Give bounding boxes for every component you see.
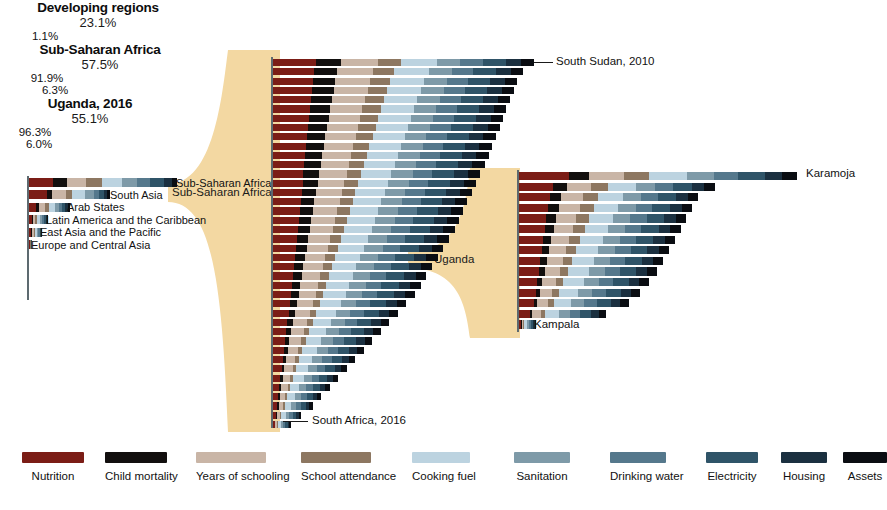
bar-segment-assets xyxy=(451,207,463,214)
legend-swatch-icon xyxy=(610,452,666,463)
bar-segment-assets xyxy=(447,217,459,224)
bar-segment-drinking-water xyxy=(584,299,597,307)
bar-segment-cooking-fuel xyxy=(287,393,295,400)
bar-segment-drinking-water xyxy=(398,207,417,214)
bar-segment-sanitation xyxy=(388,180,409,187)
bar-segment-sanitation xyxy=(385,189,406,196)
bar-segment-assets xyxy=(676,214,686,222)
bar-uganda-13 xyxy=(519,310,606,318)
bar-segment-electricity xyxy=(319,375,327,382)
bar-segment-nutrition xyxy=(273,143,306,150)
bar-segment-housing xyxy=(349,347,357,354)
bar-segment-sanitation xyxy=(636,183,655,191)
legend-item-housing[interactable]: Housing xyxy=(781,452,827,482)
bar-segment-sanitation xyxy=(608,225,625,233)
bar-segment-school-attendance xyxy=(552,289,559,297)
bar-segment-sanitation xyxy=(331,319,345,326)
bar-segment-nutrition xyxy=(29,190,47,199)
bar-ssa-34 xyxy=(273,375,338,382)
bar-segment-electricity xyxy=(443,143,465,150)
bar-segment-assets xyxy=(432,245,443,252)
bar-segment-cooking-fuel xyxy=(568,267,589,275)
bar-segment-sanitation xyxy=(321,337,333,344)
bar-segment-housing xyxy=(629,278,640,286)
bar-segment-cooking-fuel xyxy=(350,207,378,214)
bar-segment-years-of-schooling xyxy=(559,204,580,212)
bar-segment-years-of-schooling xyxy=(289,337,300,344)
bar-segment-assets xyxy=(468,170,480,177)
bar-segment-years-of-schooling xyxy=(319,170,346,177)
legend-item-child-mortality[interactable]: Child mortality xyxy=(105,452,167,482)
bar-segment-years-of-schooling xyxy=(314,198,339,205)
bar-segment-electricity xyxy=(357,319,371,326)
legend-item-drinking-water[interactable]: Drinking water xyxy=(610,452,666,482)
bar-ssa-31 xyxy=(273,347,364,354)
bar-ssa-25 xyxy=(273,291,415,298)
bar-segment-school-attendance xyxy=(624,172,649,180)
bar-segment-housing xyxy=(506,59,521,66)
bar-segment-sanitation xyxy=(368,235,387,242)
annotation-south-sudan-pct: 91.9% xyxy=(0,72,94,84)
legend-item-nutrition[interactable]: Nutrition xyxy=(22,452,84,482)
legend-item-school-attendance[interactable]: School attendance xyxy=(301,452,371,482)
legend-item-sanitation[interactable]: Sanitation xyxy=(514,452,570,482)
bar-segment-sanitation xyxy=(308,365,317,372)
bar-segment-electricity xyxy=(150,178,163,187)
bar-segment-drinking-water xyxy=(620,236,636,244)
bar-segment-housing xyxy=(419,245,432,252)
bar-segment-assets xyxy=(421,263,432,270)
bar-segment-cooking-fuel xyxy=(554,299,571,307)
bar-ssa-0 xyxy=(273,59,534,66)
bar-segment-nutrition xyxy=(273,282,292,289)
bar-ssa-4 xyxy=(273,96,510,103)
bar-segment-school-attendance xyxy=(591,183,608,191)
bar-segment-housing xyxy=(438,207,452,214)
bar-segment-cooking-fuel xyxy=(585,225,609,233)
bar-ssa-28 xyxy=(273,319,389,326)
bar-segment-nutrition xyxy=(519,183,553,191)
bar-segment-years-of-schooling xyxy=(288,347,298,354)
annotation-kampala: Kampala xyxy=(534,318,579,331)
bar-segment-electricity xyxy=(391,263,409,270)
bar-segment-electricity xyxy=(370,300,386,307)
legend-item-electricity[interactable]: Electricity xyxy=(706,452,758,482)
bar-segment-years-of-schooling xyxy=(300,282,318,289)
bar-segment-nutrition xyxy=(273,328,286,335)
bar-segment-child-mortality xyxy=(306,143,324,150)
bar-segment-child-mortality xyxy=(550,193,562,201)
bar-segment-assets xyxy=(505,78,517,85)
bar-segment-housing xyxy=(458,161,472,168)
bar-segment-electricity xyxy=(647,214,665,222)
bar-segment-housing xyxy=(676,193,688,201)
bar-segment-years-of-schooling xyxy=(293,319,307,326)
panel-title-uganda: Uganda, 2016 xyxy=(0,96,180,111)
bar-segment-cooking-fuel xyxy=(341,235,368,242)
bar-segment-drinking-water xyxy=(610,257,625,265)
bar-segment-years-of-schooling xyxy=(318,180,345,187)
bar-segment-child-mortality xyxy=(291,291,299,298)
bar-uganda-8 xyxy=(519,257,663,265)
bar-segment-nutrition xyxy=(273,161,304,168)
bar-segment-electricity xyxy=(417,207,438,214)
bar-segment-drinking-water xyxy=(433,115,454,122)
bar-segment-child-mortality xyxy=(543,236,551,244)
legend-item-assets[interactable]: Assets xyxy=(843,452,887,482)
bar-segment-years-of-schooling xyxy=(321,161,349,168)
bar-ssa-14 xyxy=(273,189,472,196)
bar-segment-drinking-water xyxy=(416,161,436,168)
bar-segment-sanitation xyxy=(395,161,416,168)
bar-segment-school-attendance xyxy=(580,204,594,212)
legend: NutritionChild mortalityYears of schooli… xyxy=(0,446,875,510)
legend-item-cooking-fuel[interactable]: Cooking fuel xyxy=(412,452,470,482)
funnel-label-uganda: Uganda xyxy=(434,253,474,265)
legend-item-years-of-schooling[interactable]: Years of schooling xyxy=(196,452,266,482)
bar-segment-school-attendance xyxy=(337,207,349,214)
bar-segment-drinking-water xyxy=(630,214,646,222)
bar-segment-electricity xyxy=(386,272,404,279)
bar-segment-housing xyxy=(371,319,380,326)
bar-segment-housing xyxy=(653,236,665,244)
bar-segment-drinking-water xyxy=(426,133,446,140)
bar-segment-years-of-schooling xyxy=(305,254,325,261)
bar-segment-drinking-water xyxy=(641,193,658,201)
bar-segment-drinking-water xyxy=(413,170,433,177)
